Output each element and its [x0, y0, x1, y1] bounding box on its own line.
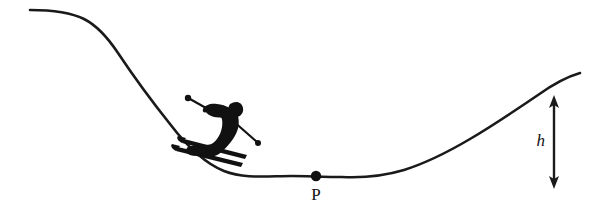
ski-pole-basket-lower: [255, 140, 261, 146]
height-h-label: h: [537, 131, 546, 150]
skier-silhouette: [171, 95, 261, 167]
physics-diagram-figure: P h: [0, 0, 598, 216]
slope-path: [30, 10, 580, 177]
point-p-label: P: [311, 185, 320, 204]
diagram-canvas: P h: [0, 0, 598, 216]
ski-pole-basket-upper: [185, 95, 191, 101]
lowest-point-marker: P: [311, 171, 321, 204]
height-arrow-double-headed: h: [537, 95, 560, 189]
skier-body: [186, 102, 243, 157]
terrain-profile-curve: [30, 10, 580, 177]
point-p-dot: [311, 171, 321, 181]
